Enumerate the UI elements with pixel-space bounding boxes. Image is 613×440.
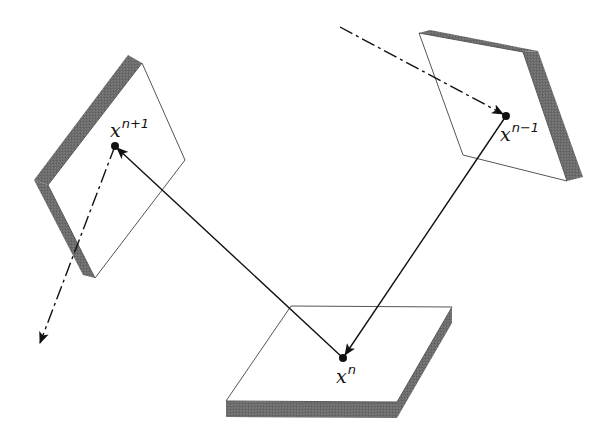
label-sup: n+1: [122, 116, 149, 131]
label-base: x: [500, 123, 511, 145]
left-plane: [34, 55, 185, 278]
point-x-n: [339, 354, 347, 362]
point-x-n-plus-1: [111, 142, 119, 150]
label-x-n-plus-1: xn+1: [110, 116, 149, 141]
arrow-xn-to-xnplus1: [117, 148, 343, 358]
right-plane: [419, 30, 583, 181]
diagram-canvas: [0, 0, 613, 440]
point-x-n-minus-1: [502, 112, 510, 120]
label-base: x: [110, 119, 121, 141]
label-sup: n−1: [512, 120, 539, 135]
label-x-n-minus-1: xn−1: [500, 120, 539, 145]
label-base: x: [336, 365, 347, 387]
projection-diagram: xn+1 xn−1 xn: [0, 0, 613, 440]
label-x-n: xn: [336, 362, 356, 387]
label-sup: n: [348, 362, 356, 377]
